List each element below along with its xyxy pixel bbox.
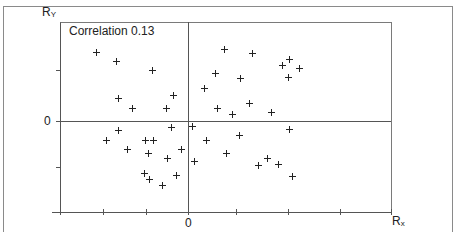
x-tick: [288, 209, 289, 215]
data-point-marker: [103, 137, 110, 144]
data-point-marker: [163, 105, 170, 112]
data-point-marker: [145, 150, 152, 157]
data-point-marker: [203, 137, 210, 144]
y-tick: [56, 212, 61, 213]
data-point-marker: [268, 109, 275, 116]
data-point-marker: [170, 92, 177, 99]
x-axis-label: Rx: [392, 214, 405, 228]
data-point-marker: [246, 100, 253, 107]
x-tick: [103, 209, 104, 215]
data-point-marker: [249, 50, 256, 57]
data-point-marker: [221, 46, 228, 53]
x-tick: [146, 209, 147, 215]
data-point-marker: [173, 172, 180, 179]
data-point-marker: [296, 65, 303, 72]
y-tick: [56, 121, 61, 122]
data-point-marker: [115, 127, 122, 134]
y-axis-label-sub: Y: [51, 10, 56, 19]
data-point-marker: [178, 146, 185, 153]
x-axis-label-sub: x: [401, 219, 405, 228]
x-tick: [188, 209, 189, 215]
correlation-annotation: Correlation 0.13: [69, 24, 154, 38]
data-point-marker: [142, 137, 149, 144]
data-point-marker: [159, 182, 166, 189]
data-point-marker: [164, 155, 171, 162]
data-point-marker: [289, 173, 296, 180]
data-point-marker: [286, 56, 293, 63]
x-tick: [236, 209, 237, 215]
data-point-marker: [236, 132, 243, 139]
y-zero-line: [60, 121, 391, 122]
data-point-marker: [129, 105, 136, 112]
data-point-marker: [201, 85, 208, 92]
y-tick: [56, 167, 61, 168]
x-zero-line: [188, 22, 189, 212]
data-point-marker: [286, 126, 293, 133]
data-point-marker: [255, 162, 262, 169]
data-point-marker: [214, 105, 221, 112]
data-point-marker: [264, 155, 271, 162]
data-point-marker: [223, 150, 230, 157]
data-point-marker: [229, 111, 236, 118]
y-zero-tick-label: 0: [44, 114, 51, 128]
data-point-marker: [149, 67, 156, 74]
y-axis-label: RY: [42, 5, 56, 19]
data-point-marker: [275, 161, 282, 168]
x-tick: [340, 209, 341, 215]
x-zero-tick-label: 0: [185, 216, 192, 230]
data-point-marker: [124, 146, 131, 153]
data-point-marker: [285, 74, 292, 81]
data-point-marker: [237, 75, 244, 82]
x-axis-label-main: R: [392, 214, 401, 228]
data-point-marker: [150, 137, 157, 144]
data-point-marker: [279, 62, 286, 69]
data-point-marker: [113, 58, 120, 65]
y-tick: [56, 70, 61, 71]
data-point-marker: [212, 70, 219, 77]
data-point-marker: [191, 158, 198, 165]
data-point-marker: [189, 123, 196, 130]
data-point-marker: [168, 124, 175, 131]
data-point-marker: [93, 49, 100, 56]
y-axis-label-main: R: [42, 5, 51, 19]
data-point-marker: [146, 176, 153, 183]
data-point-marker: [115, 95, 122, 102]
